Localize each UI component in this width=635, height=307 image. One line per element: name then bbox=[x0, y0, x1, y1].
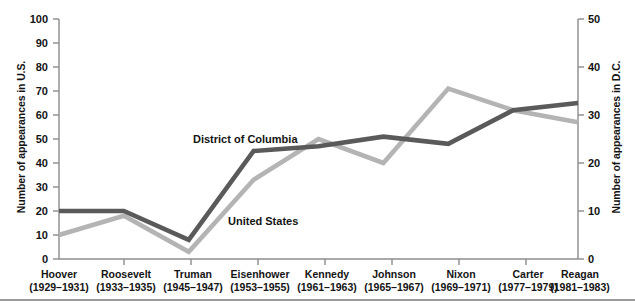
footer-divider bbox=[0, 299, 635, 301]
right-axis-ticks bbox=[578, 19, 584, 259]
left-axis-ticks bbox=[53, 19, 59, 259]
series-line-district-of-columbia bbox=[59, 89, 578, 252]
y-tick-left-90: 90 bbox=[22, 37, 48, 49]
y-tick-left-50: 50 bbox=[22, 133, 48, 145]
x-category-years: (1981–1983) bbox=[525, 281, 635, 294]
y-tick-left-20: 20 bbox=[22, 205, 48, 217]
y-tick-left-70: 70 bbox=[22, 85, 48, 97]
x-category-name: Reagan bbox=[561, 268, 599, 280]
y-tick-left-60: 60 bbox=[22, 109, 48, 121]
series-annotation-district-of-columbia: District of Columbia bbox=[193, 133, 298, 145]
y-tick-left-0: 0 bbox=[22, 253, 48, 265]
chart-figure: Number of appearances in U.S. Number of … bbox=[0, 0, 635, 307]
y-tick-left-100: 100 bbox=[22, 13, 48, 25]
plot-area bbox=[0, 0, 635, 307]
y-tick-right-50: 50 bbox=[588, 13, 614, 25]
x-category-reagan: Reagan (1981–1983) bbox=[525, 268, 635, 294]
y-tick-right-40: 40 bbox=[588, 61, 614, 73]
y-tick-left-10: 10 bbox=[22, 229, 48, 241]
y-tick-right-0: 0 bbox=[588, 253, 614, 265]
x-axis-ticks bbox=[124, 259, 526, 265]
y-tick-right-10: 10 bbox=[588, 205, 614, 217]
y-tick-left-30: 30 bbox=[22, 181, 48, 193]
y-tick-right-20: 20 bbox=[588, 157, 614, 169]
y-tick-right-30: 30 bbox=[588, 109, 614, 121]
y-tick-left-80: 80 bbox=[22, 61, 48, 73]
y-tick-left-40: 40 bbox=[22, 157, 48, 169]
x-category-name: Nixon bbox=[446, 268, 475, 280]
series-line-united-states bbox=[59, 103, 578, 240]
series-annotation-united-states: United States bbox=[228, 215, 298, 227]
